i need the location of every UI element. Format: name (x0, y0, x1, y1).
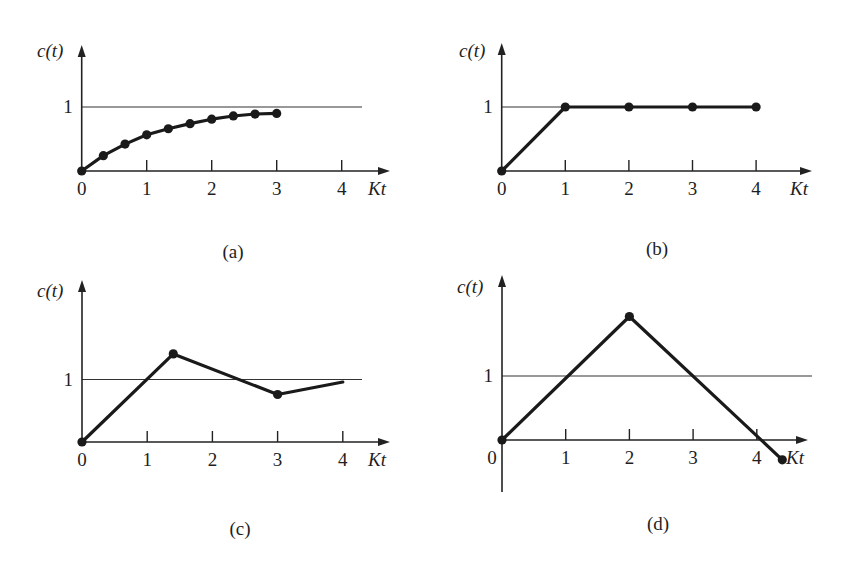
panel-a-x-arrow-icon (378, 167, 390, 175)
panel-b-y-tick-label: 1 (483, 96, 493, 117)
panel-c-data-point (77, 437, 86, 446)
panel-c-data-point (169, 349, 178, 358)
panel-a-x-tick-label: 4 (337, 178, 347, 199)
panel-d-x-tick-label: 4 (752, 447, 762, 468)
panel-b-x-arrow-icon (800, 167, 812, 175)
panel-c-x-tick-label: 1 (142, 449, 152, 470)
panel-a-data-point (99, 151, 108, 160)
panel-b-x-tick-label: 1 (561, 178, 571, 199)
panel-a-caption: (a) (222, 241, 243, 263)
panel-c: (c) 012341Ktc(t) (37, 280, 390, 540)
panel-b-data-point (688, 102, 697, 111)
panel-d: (d) 012341Ktc(t) (457, 275, 812, 535)
panel-d-x-arrow-icon (796, 436, 808, 444)
panel-c-response-curve (82, 354, 343, 442)
panel-c-x-arrow-icon (378, 438, 390, 446)
panel-d-data-point (497, 435, 506, 444)
panel-b-x-tick-label: 0 (497, 178, 507, 199)
panel-a: (a) 012341Ktc(t) (37, 40, 390, 263)
panel-b-y-axis-title: c(t) (459, 40, 485, 62)
panel-b-x-axis-title: Kt (789, 178, 809, 199)
panel-d-y-arrow-icon (498, 275, 506, 287)
panel-d-y-axis-title: c(t) (457, 276, 483, 298)
panel-a-data-point (164, 124, 173, 133)
panel-d-x-tick-label: 2 (625, 447, 635, 468)
panel-c-data-point (273, 390, 282, 399)
panel-d-caption: (d) (647, 513, 669, 535)
panel-b-data-point (497, 166, 506, 175)
panel-c-caption: (c) (229, 518, 250, 540)
panel-d-y-tick-label: 1 (484, 365, 494, 386)
panel-c-x-tick-label: 2 (208, 449, 218, 470)
panel-b-x-tick-label: 4 (751, 178, 761, 199)
panel-a-data-point (272, 109, 281, 118)
panel-c-x-tick-label: 4 (338, 449, 348, 470)
panel-a-x-tick-label: 1 (142, 178, 152, 199)
panel-a-y-axis-title: c(t) (37, 40, 63, 62)
panel-b-x-tick-label: 3 (688, 178, 698, 199)
panel-a-data-point (250, 109, 259, 118)
panel-a-x-tick-label: 0 (77, 178, 87, 199)
panel-c-x-axis-title: Kt (367, 449, 387, 470)
panel-c-y-tick-label: 1 (64, 369, 74, 390)
panel-d-x-tick-label: 1 (561, 447, 571, 468)
panel-b-y-arrow-icon (498, 43, 506, 55)
panel-d-x-tick-label: 0 (487, 447, 497, 468)
panel-a-y-tick-label: 1 (63, 96, 73, 117)
panel-b-data-point (624, 102, 633, 111)
panel-d-x-tick-label: 3 (688, 447, 698, 468)
panel-a-y-arrow-icon (78, 45, 86, 57)
panel-b: (b) 012341Ktc(t) (459, 40, 812, 260)
panel-a-x-tick-label: 3 (272, 178, 282, 199)
panel-c-y-axis-title: c(t) (37, 280, 63, 302)
panel-d-data-point (778, 455, 787, 464)
panel-b-data-point (561, 102, 570, 111)
panel-a-response-curve (82, 113, 277, 171)
panel-a-data-point (142, 130, 151, 139)
panel-a-data-point (229, 111, 238, 120)
panel-a-x-axis-title: Kt (367, 178, 387, 199)
panel-b-x-tick-label: 2 (624, 178, 634, 199)
panel-a-data-point (185, 119, 194, 128)
panel-d-data-point (625, 312, 634, 321)
panel-c-x-tick-label: 3 (273, 449, 283, 470)
panel-a-x-tick-label: 2 (207, 178, 217, 199)
panel-d-response-curve (502, 317, 782, 460)
panel-c-x-tick-label: 0 (77, 449, 87, 470)
panel-c-y-arrow-icon (78, 280, 86, 292)
panel-a-data-point (77, 166, 86, 175)
panel-d-x-axis-title: Kt (785, 447, 805, 468)
figure-2x2-step-responses: (a) 012341Ktc(t) (b) 012341Ktc(t) (c) 01… (0, 0, 847, 568)
panel-b-caption: (b) (646, 238, 668, 260)
panel-b-data-point (752, 102, 761, 111)
panel-a-data-point (120, 140, 129, 149)
panel-a-data-point (207, 115, 216, 124)
